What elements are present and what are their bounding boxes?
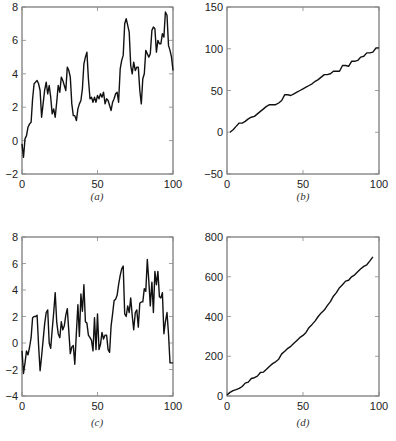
y-tick-label: 800 bbox=[205, 231, 223, 243]
chart-svg-d: 0200400600800050100 bbox=[0, 0, 396, 441]
plot-frame bbox=[227, 237, 379, 396]
x-tick-label: 0 bbox=[224, 400, 230, 412]
caption-a: (a) bbox=[82, 190, 112, 202]
caption-b: (b) bbox=[288, 190, 318, 202]
y-tick-label: 0 bbox=[217, 390, 223, 402]
caption-d: (d) bbox=[288, 416, 318, 428]
series-line-d bbox=[227, 257, 373, 395]
x-tick-label: 50 bbox=[297, 400, 309, 412]
x-tick-label: 100 bbox=[370, 400, 388, 412]
caption-c: (c) bbox=[82, 416, 112, 428]
y-tick-label: 600 bbox=[205, 271, 223, 283]
y-tick-label: 400 bbox=[205, 311, 223, 323]
y-tick-label: 200 bbox=[205, 350, 223, 362]
